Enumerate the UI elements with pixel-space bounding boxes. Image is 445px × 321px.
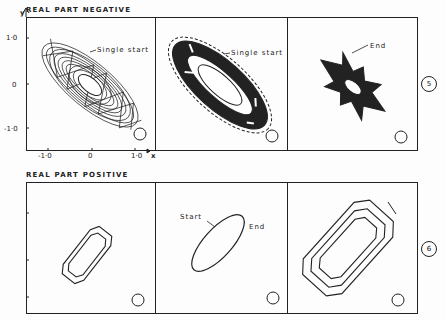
- y-axis-arrow-icon: [23, 8, 29, 17]
- plot-graphics: [0, 0, 445, 321]
- figure: REAL PART NEGATIVE REAL PART POSITIVE y …: [0, 0, 445, 321]
